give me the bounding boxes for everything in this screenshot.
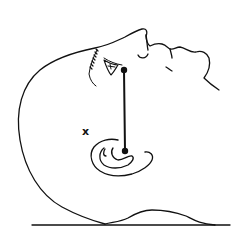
eye-point-marker [121,67,127,73]
eye-ear-line [124,70,125,151]
head-illustration [0,0,243,237]
ear-point-marker [122,148,128,154]
head-outline [18,29,219,224]
lip-line [170,49,172,58]
shoulder-contour [105,210,215,225]
eyebrow-hatch [90,49,98,69]
nostril [138,54,148,58]
ear-inner [100,148,133,168]
x-mark-label: x [82,126,89,137]
mouth-line [166,67,172,71]
ear-tragus [104,149,106,156]
head-diagram: x [0,0,243,237]
